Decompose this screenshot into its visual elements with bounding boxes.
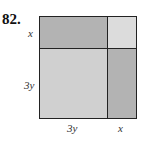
- region-bottom-right: [108, 49, 136, 118]
- vertical-divider: [107, 17, 109, 118]
- region-top-right: [108, 17, 136, 48]
- label-left-3y: 3y: [24, 79, 34, 91]
- problem-number: 82.: [2, 11, 21, 28]
- region-top-left: [40, 17, 107, 48]
- horizontal-divider: [40, 48, 136, 50]
- region-bottom-left: [40, 49, 107, 118]
- area-model-square: [39, 16, 137, 119]
- label-left-x: x: [28, 27, 33, 39]
- label-bottom-3y: 3y: [67, 122, 77, 134]
- label-bottom-x: x: [118, 122, 123, 134]
